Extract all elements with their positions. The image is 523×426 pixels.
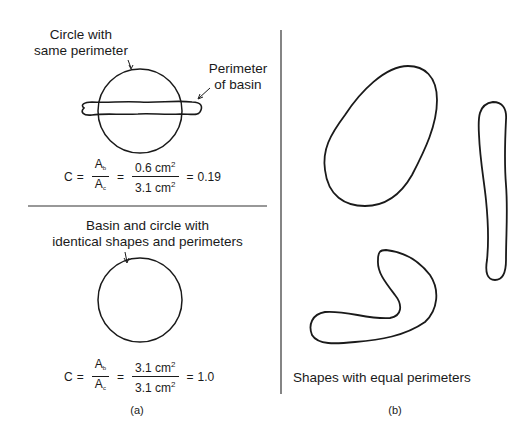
identical-label-line1: Basin and circle with xyxy=(30,218,265,234)
circle-label: Circle with same perimeter xyxy=(26,27,136,59)
value-denominator-exponent: 2 xyxy=(171,380,175,389)
value-fraction: 0.6 cm2 3.1 cm2 xyxy=(132,158,178,195)
elongated-basin-outline xyxy=(82,101,201,115)
value-denominator: 3.1 cm xyxy=(135,181,171,195)
compactness-formula-circle: C = Ab Ac = 3.1 cm2 3.1 cm2 = 1.0 xyxy=(64,358,214,395)
compactness-formula-elongated: C = Ab Ac = 0.6 cm2 3.1 cm2 = 0.19 xyxy=(64,158,221,195)
egg-shape xyxy=(324,66,437,206)
identical-circle xyxy=(98,258,182,342)
value-denominator-exponent: 2 xyxy=(171,180,175,189)
ratio-denominator: A xyxy=(95,377,103,391)
formula-equals: = xyxy=(117,170,124,184)
formula-equals: = xyxy=(187,370,194,384)
boomerang-shape xyxy=(311,250,437,343)
ratio-numerator-subscript: b xyxy=(103,365,106,371)
formula-equals: = xyxy=(77,370,84,384)
formula-equals: = xyxy=(77,170,84,184)
identical-label: Basin and circle with identical shapes a… xyxy=(30,218,265,250)
same-perimeter-circle xyxy=(98,69,182,153)
formula-lhs: C xyxy=(64,370,73,384)
value-fraction: 3.1 cm2 3.1 cm2 xyxy=(132,358,178,395)
circle-label-line2: same perimeter xyxy=(26,43,136,59)
formula-equals: = xyxy=(117,370,124,384)
basin-label-line1: Perimeter xyxy=(203,61,273,77)
value-numerator-exponent: 2 xyxy=(171,360,175,369)
formula-result: 1.0 xyxy=(198,370,215,384)
formula-lhs: C xyxy=(64,170,73,184)
formula-result: 0.19 xyxy=(198,170,221,184)
area-ratio-fraction: Ab Ac xyxy=(92,158,109,195)
panel-a-caption: (a) xyxy=(117,404,157,416)
value-denominator: 3.1 cm xyxy=(135,381,171,395)
ratio-denominator: A xyxy=(95,177,103,191)
ratio-numerator: A xyxy=(95,357,103,371)
basin-label: Perimeter of basin xyxy=(203,61,273,93)
value-numerator: 0.6 cm xyxy=(135,161,171,175)
value-numerator: 3.1 cm xyxy=(135,361,171,375)
formula-equals: = xyxy=(187,170,194,184)
thin-elongated-shape xyxy=(479,102,507,280)
panel-b-caption: (b) xyxy=(375,404,415,416)
basin-label-line2: of basin xyxy=(203,77,273,93)
area-ratio-fraction: Ab Ac xyxy=(92,358,109,395)
ratio-numerator-subscript: b xyxy=(103,165,106,171)
ratio-denominator-subscript: c xyxy=(103,185,106,191)
panel-b-label: Shapes with equal perimeters xyxy=(293,370,503,386)
ratio-numerator: A xyxy=(95,157,103,171)
identical-label-line2: identical shapes and perimeters xyxy=(30,234,265,250)
circle-label-line1: Circle with xyxy=(26,27,136,43)
ratio-denominator-subscript: c xyxy=(103,385,106,391)
value-numerator-exponent: 2 xyxy=(171,160,175,169)
